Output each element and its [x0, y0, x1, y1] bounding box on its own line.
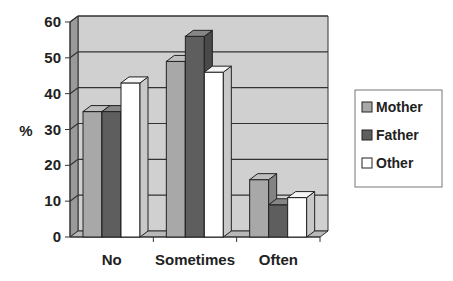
- legend-label: Other: [376, 155, 414, 171]
- x-tick-label: No: [102, 251, 122, 268]
- y-tick-label: 0: [53, 228, 61, 245]
- bar: [288, 192, 315, 237]
- y-tick-label: 20: [44, 156, 61, 173]
- legend-swatch: [362, 158, 372, 168]
- bar: [204, 66, 231, 237]
- x-tick-label: Often: [259, 251, 298, 268]
- bar: [121, 77, 148, 237]
- bar-chart: 0102030405060%NoSometimesOftenMotherFath…: [0, 0, 453, 281]
- y-tick-label: 60: [44, 13, 61, 30]
- legend: MotherFatherOther: [355, 90, 442, 187]
- legend-swatch: [362, 130, 372, 140]
- y-tick-label: 30: [44, 121, 61, 138]
- y-tick-label: 40: [44, 85, 61, 102]
- legend-label: Father: [376, 127, 419, 143]
- y-tick-label: 10: [44, 192, 61, 209]
- x-tick-label: Sometimes: [155, 251, 235, 268]
- legend-label: Mother: [376, 99, 423, 115]
- y-tick-label: 50: [44, 49, 61, 66]
- legend-swatch: [362, 102, 372, 112]
- y-axis-label: %: [19, 122, 32, 139]
